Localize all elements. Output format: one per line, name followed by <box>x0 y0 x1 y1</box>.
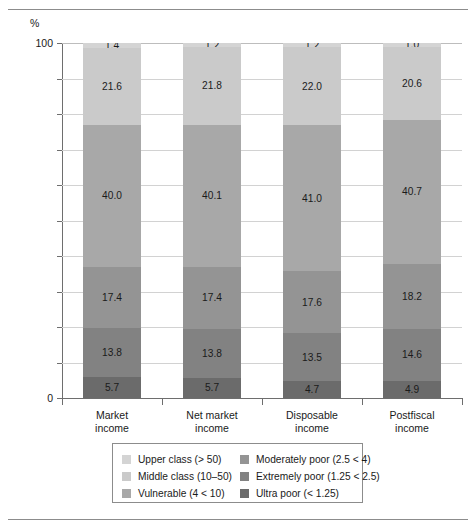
bar-segment[interactable]: 13.5 <box>283 333 341 381</box>
bar-segment-value: 17.6 <box>302 297 322 308</box>
legend-item-label: Vulnerable (4 < 10) <box>138 488 225 499</box>
bar-segment-value: 5.7 <box>205 382 219 393</box>
legend-swatch-icon <box>122 489 131 498</box>
bar-segment-value: 13.8 <box>102 347 122 358</box>
stacked-bar[interactable]: 1.221.840.117.413.85.7 <box>183 43 241 398</box>
y-axis-tick <box>57 185 62 186</box>
y-axis-tick <box>57 327 62 328</box>
bar-segment-value: 17.4 <box>102 292 122 303</box>
bar-segment-value: 13.5 <box>302 352 322 363</box>
legend-item-label: Middle class (10–50) <box>138 471 232 482</box>
legend-item[interactable]: Upper class (> 50) <box>122 451 232 468</box>
bar-segment-value: 5.7 <box>105 382 119 393</box>
legend-swatch-icon <box>240 489 249 498</box>
bar-segment[interactable]: 17.6 <box>283 271 341 333</box>
category-label-line: Market <box>57 409 167 422</box>
bar-segment-value: 22.0 <box>302 81 322 92</box>
x-axis-tick <box>262 398 263 405</box>
legend-item[interactable]: Moderately poor (2.5 < 4) <box>240 451 380 468</box>
bar-segment[interactable]: 41.0 <box>283 125 341 271</box>
x-axis-category-label: Disposableincome <box>257 409 367 435</box>
bar-segment[interactable]: 4.7 <box>283 381 341 398</box>
bar-segment[interactable]: 5.7 <box>83 377 141 397</box>
x-axis-tick <box>162 398 163 405</box>
category-label-line: income <box>357 422 467 435</box>
stacked-bar[interactable]: 1.222.041.017.613.54.7 <box>283 43 341 398</box>
bar-segment[interactable]: 40.7 <box>383 120 441 264</box>
x-axis-category-label: Net marketincome <box>157 409 267 435</box>
bar-segment-value: 13.8 <box>202 348 222 359</box>
figure: % 0100 1.421.640.017.413.85.71.221.840.1… <box>0 0 476 530</box>
y-axis-tick <box>57 363 62 364</box>
legend-swatch-icon <box>122 472 131 481</box>
category-label-line: income <box>157 422 267 435</box>
bar-segment[interactable]: 17.4 <box>183 267 241 329</box>
bar-segment[interactable]: 13.8 <box>183 329 241 378</box>
legend-column-left: Upper class (> 50)Middle class (10–50)Vu… <box>122 451 232 502</box>
category-label-line: Postfiscal <box>357 409 467 422</box>
legend-item-label: Extremely poor (1.25 < 2.5) <box>256 471 380 482</box>
category-label-line: Disposable <box>257 409 367 422</box>
legend-item-label: Ultra poor (< 1.25) <box>256 488 339 499</box>
y-axis-tick <box>57 256 62 257</box>
bar-segment[interactable]: 22.0 <box>283 47 341 125</box>
legend-column-right: Moderately poor (2.5 < 4)Extremely poor … <box>240 451 380 502</box>
legend-item-label: Moderately poor (2.5 < 4) <box>256 454 371 465</box>
x-axis-tick <box>62 398 63 405</box>
stacked-bar[interactable]: 1.421.640.017.413.85.7 <box>83 43 141 398</box>
bar-segment-value: 4.9 <box>405 384 419 395</box>
bar-segment-value: 21.6 <box>102 81 122 92</box>
legend-swatch-icon <box>240 472 249 481</box>
x-axis-category-label: Marketincome <box>57 409 167 435</box>
stacked-bar[interactable]: 1.020.640.718.214.64.9 <box>383 43 441 398</box>
y-axis-unit-label: % <box>30 18 39 29</box>
y-axis-tick <box>57 292 62 293</box>
bar-segment-value: 40.0 <box>102 190 122 201</box>
legend-swatch-icon <box>240 455 249 464</box>
legend: Upper class (> 50)Middle class (10–50)Vu… <box>112 443 363 503</box>
x-axis-tick <box>462 398 463 405</box>
bar-segment[interactable]: 40.0 <box>83 125 141 267</box>
bar-segment[interactable]: 5.7 <box>183 378 241 398</box>
legend-item[interactable]: Vulnerable (4 < 10) <box>122 485 232 502</box>
legend-item[interactable]: Middle class (10–50) <box>122 468 232 485</box>
bar-segment[interactable]: 18.2 <box>383 264 441 329</box>
bar-segment[interactable]: 13.8 <box>83 328 141 377</box>
y-axis-tick <box>57 79 62 80</box>
y-axis-tick-label: 100 <box>35 38 53 48</box>
plot-area: 0100 1.421.640.017.413.85.71.221.840.117… <box>62 43 462 398</box>
bar-segment-value: 17.4 <box>202 292 222 303</box>
top-divider-rule <box>8 9 468 10</box>
bottom-divider-rule <box>8 519 468 520</box>
bar-segment-value: 20.6 <box>402 78 422 89</box>
category-label-line: income <box>57 422 167 435</box>
y-axis-tick <box>57 43 62 44</box>
category-label-line: Net market <box>157 409 267 422</box>
category-label-line: income <box>257 422 367 435</box>
bar-segment[interactable]: 21.8 <box>183 47 241 124</box>
y-axis-tick <box>57 114 62 115</box>
bar-segment-value: 40.7 <box>402 186 422 197</box>
bar-segment-value: 18.2 <box>402 291 422 302</box>
y-axis-tick <box>57 221 62 222</box>
y-axis-tick-label: 0 <box>47 393 53 403</box>
x-axis-tick <box>362 398 363 405</box>
legend-swatch-icon <box>122 455 131 464</box>
bar-segment-value: 41.0 <box>302 193 322 204</box>
bar-segment-value: 14.6 <box>402 349 422 360</box>
x-axis-category-label: Postfiscalincome <box>357 409 467 435</box>
legend-item[interactable]: Ultra poor (< 1.25) <box>240 485 380 502</box>
bar-segment[interactable]: 4.9 <box>383 381 441 398</box>
bar-segment[interactable]: 17.4 <box>83 267 141 329</box>
bar-segment[interactable]: 21.6 <box>83 48 141 125</box>
bar-segment[interactable]: 14.6 <box>383 329 441 381</box>
bar-segment-value: 40.1 <box>202 190 222 201</box>
bar-segment-value: 4.7 <box>305 384 319 395</box>
bar-segment[interactable]: 20.6 <box>383 47 441 120</box>
bar-segment-value: 21.8 <box>202 80 222 91</box>
legend-item[interactable]: Extremely poor (1.25 < 2.5) <box>240 468 380 485</box>
bar-segment[interactable]: 40.1 <box>183 125 241 267</box>
y-axis-tick <box>57 150 62 151</box>
legend-item-label: Upper class (> 50) <box>138 454 222 465</box>
